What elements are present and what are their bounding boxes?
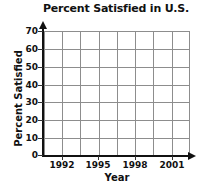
y-tick-label-50: 50	[2, 63, 38, 72]
y-tick-mark-0	[38, 155, 43, 156]
gridline-v-7	[172, 31, 173, 156]
x-tick-label-2001: 2001	[155, 160, 189, 170]
gridline-v-4	[117, 31, 118, 156]
y-tick-label-40: 40	[2, 81, 38, 90]
y-tick-label-30: 30	[2, 98, 38, 107]
y-tick-mark-20	[38, 120, 43, 121]
x-axis-line	[42, 155, 190, 157]
y-tick-mark-40	[38, 85, 43, 86]
chart-container: Percent Satisfied in U.S. Percent Satisf…	[0, 0, 202, 191]
plot-area	[44, 31, 190, 156]
y-tick-label-60: 60	[2, 45, 38, 54]
y-tick-mark-10	[38, 138, 43, 139]
y-tick-label-70: 70	[2, 27, 38, 36]
y-tick-label-10: 10	[2, 134, 38, 143]
gridline-v-0	[44, 31, 45, 156]
x-axis-arrow-icon	[188, 152, 196, 160]
y-tick-mark-60	[38, 49, 43, 50]
x-tick-label-1995: 1995	[81, 160, 115, 170]
gridline-v-1	[62, 31, 63, 156]
x-axis-title: Year	[44, 172, 190, 183]
gridline-v-2	[80, 31, 81, 156]
x-tick-label-1992: 1992	[45, 160, 79, 170]
gridline-v-3	[99, 31, 100, 156]
y-axis-arrow-icon	[39, 21, 47, 29]
gridline-v-6	[153, 31, 154, 156]
y-tick-mark-70	[38, 31, 43, 32]
gridline-v-5	[135, 31, 136, 156]
x-tick-label-1998: 1998	[118, 160, 152, 170]
chart-title: Percent Satisfied in U.S.	[30, 2, 202, 15]
y-tick-label-0: 0	[2, 151, 38, 160]
y-tick-label-20: 20	[2, 116, 38, 125]
gridline-v-8	[189, 31, 190, 156]
y-tick-mark-30	[38, 102, 43, 103]
y-tick-mark-50	[38, 67, 43, 68]
